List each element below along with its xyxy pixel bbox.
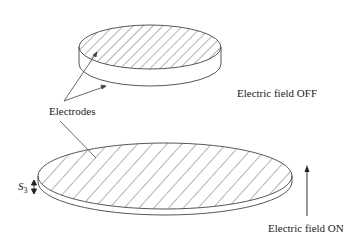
bottom-electrode-surface — [38, 143, 292, 209]
thickness-arrow-icon — [32, 180, 37, 194]
electrodes-label: Electrodes — [49, 105, 95, 117]
top-electrode-surface — [79, 25, 221, 69]
diagram-canvas — [0, 0, 355, 243]
bottom-disk-field-on — [38, 143, 292, 215]
field-off-label: Electric field OFF — [237, 87, 317, 99]
electric-field-arrow-icon — [305, 165, 310, 216]
field-on-label: Electric field ON — [268, 222, 344, 234]
thickness-subscript: 3 — [24, 186, 28, 195]
top-disk-field-off — [79, 25, 221, 86]
thickness-label: S3 — [18, 180, 28, 195]
